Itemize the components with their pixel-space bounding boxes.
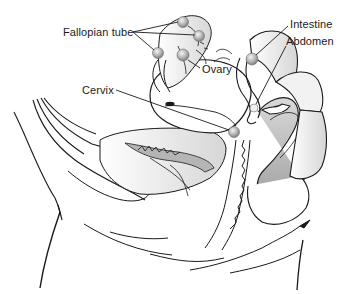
label-cervix: Cervix	[82, 84, 114, 96]
label-ovary: Ovary	[202, 63, 232, 75]
marker-ovary	[177, 49, 189, 61]
label-abdomen: Abdomen	[286, 35, 334, 47]
marker-fallopian-right	[194, 31, 205, 42]
marker-fallopian-top	[178, 17, 189, 28]
label-fallopian-tube: Fallopian tube	[63, 26, 134, 38]
label-intestine: Intestine	[290, 18, 332, 30]
marker-abdomen	[250, 104, 258, 112]
marker-fallopian-left	[153, 48, 164, 59]
marker-cervix	[229, 127, 240, 138]
body-outline	[14, 98, 150, 288]
uterine-cavity	[166, 102, 174, 105]
anatomy-diagram: Fallopian tube Ovary Intestine Abdomen C…	[0, 0, 343, 294]
leader-fallopian-left	[133, 32, 154, 50]
